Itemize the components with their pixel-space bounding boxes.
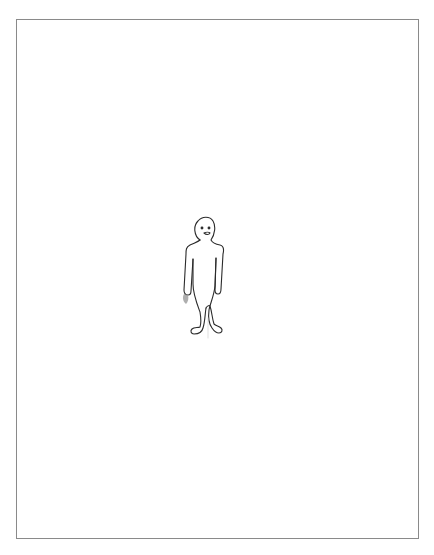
person-drawing <box>176 214 238 342</box>
left-leg-outline <box>191 259 206 334</box>
right-leg-outline <box>209 258 222 333</box>
person-figure-icon <box>176 214 238 342</box>
right-eye <box>208 227 210 229</box>
left-hand-shading <box>183 294 188 304</box>
drawing-canvas <box>0 0 434 555</box>
left-arm-outline <box>184 240 200 295</box>
mouth <box>204 232 210 234</box>
left-eye <box>201 227 203 229</box>
